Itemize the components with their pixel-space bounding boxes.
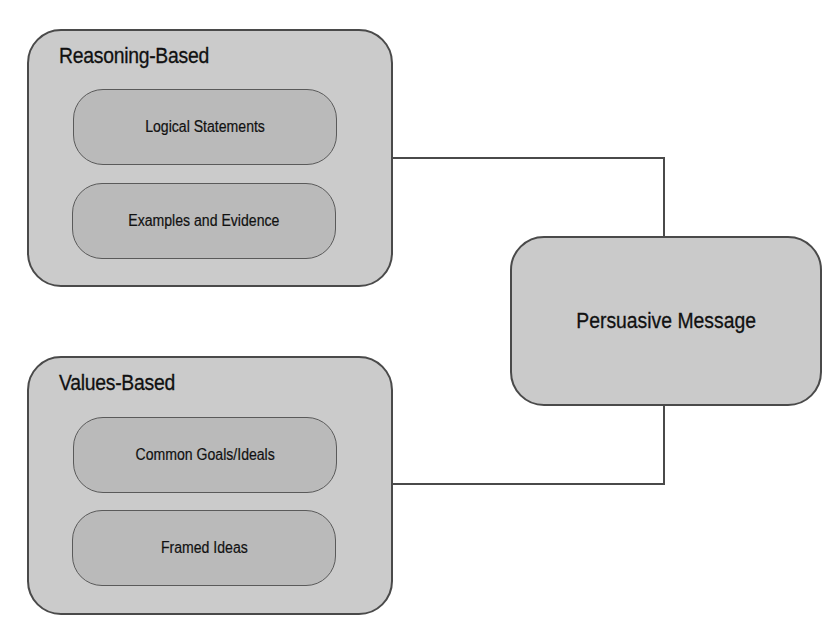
group-reasoning-based: Reasoning-Based Logical Statements Examp… [27, 29, 393, 287]
item-logical-statements: Logical Statements [73, 89, 337, 165]
item-label: Logical Statements [145, 118, 265, 136]
target-label: Persuasive Message [576, 308, 756, 334]
group-title: Reasoning-Based [59, 43, 209, 69]
group-values-based: Values-Based Common Goals/Ideals Framed … [27, 356, 393, 615]
connector-reasoning-to-message [391, 158, 664, 237]
item-label: Examples and Evidence [128, 212, 279, 230]
node-persuasive-message: Persuasive Message [510, 236, 822, 406]
item-label: Common Goals/Ideals [135, 446, 274, 464]
item-framed-ideas: Framed Ideas [72, 510, 336, 586]
connector-values-to-message [391, 405, 664, 484]
item-label: Framed Ideas [161, 539, 248, 557]
item-examples-and-evidence: Examples and Evidence [72, 183, 336, 259]
item-common-goals-ideals: Common Goals/Ideals [73, 417, 337, 493]
group-title: Values-Based [59, 370, 175, 396]
